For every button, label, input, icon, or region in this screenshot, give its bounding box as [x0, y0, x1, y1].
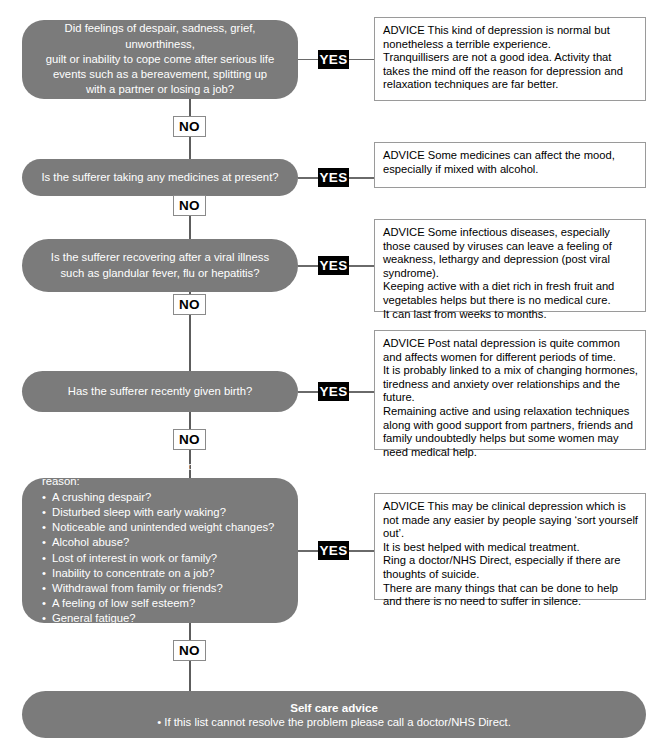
list-item: Alcohol abuse?	[52, 535, 298, 550]
list-item: A feeling of low self esteem?	[52, 596, 298, 611]
self-care-advice-bar: Self care advice • If this list cannot r…	[22, 691, 646, 738]
yes-badge-4[interactable]: YES	[318, 382, 349, 401]
yes-connector-3	[298, 265, 318, 267]
advice-paragraph: There are many things that can be done t…	[383, 582, 638, 609]
advice-paragraph: ADVICE Post natal depression is quite co…	[383, 337, 638, 364]
advice-box-3: ADVICE Some infectious diseases, especia…	[374, 219, 646, 312]
yes-badge-3[interactable]: YES	[318, 256, 349, 275]
advice-paragraph: Tranquillisers are not a good idea. Acti…	[383, 51, 638, 92]
question-text-3: Is the sufferer recovering after a viral…	[22, 250, 298, 280]
advice-box-1: ADVICE This kind of depression is normal…	[374, 17, 646, 101]
list-item: Disturbed sleep with early waking?	[52, 505, 298, 520]
connector-line-10	[189, 661, 191, 691]
connector-line-2	[189, 137, 191, 159]
yes-connector-3b	[349, 265, 374, 267]
yes-badge-2[interactable]: YES	[318, 168, 349, 187]
yes-connector-1b	[349, 59, 374, 61]
question-box-1[interactable]: Did feelings of despair, sadness, grief,…	[22, 20, 298, 99]
depression-flowchart: Did feelings of despair, sadness, grief,…	[0, 0, 663, 744]
yes-connector-2b	[349, 177, 374, 179]
advice-box-2: ADVICE Some medicines can affect the moo…	[374, 142, 646, 188]
list-item: Withdrawal from family or friends?	[52, 581, 298, 596]
yes-connector-2	[298, 177, 318, 179]
symptom-list: A crushing despair? Disturbed sleep with…	[22, 490, 298, 642]
yes-badge-1[interactable]: YES	[318, 50, 349, 69]
self-care-line: • If this list cannot resolve the proble…	[157, 715, 511, 730]
yes-connector-5	[298, 550, 318, 552]
advice-box-4: ADVICE Post natal depression is quite co…	[374, 330, 646, 450]
question-text-5: Is the sufferer experiencing, for no app…	[22, 459, 298, 489]
yes-badge-5[interactable]: YES	[318, 541, 349, 560]
advice-paragraph: ADVICE This may be clinical depression w…	[383, 500, 638, 541]
advice-paragraph: ADVICE Some medicines can affect the moo…	[383, 149, 638, 176]
self-care-title: Self care advice	[290, 700, 378, 715]
advice-paragraph: Remaining active and using relaxation te…	[383, 405, 638, 459]
advice-paragraph: It is probably linked to a mix of changi…	[383, 364, 638, 405]
no-badge-1[interactable]: NO	[173, 116, 206, 137]
question-box-2[interactable]: Is the sufferer taking any medicines at …	[22, 159, 298, 196]
list-item: Noticeable and unintended weight changes…	[52, 520, 298, 535]
list-item: A crushing despair?	[52, 490, 298, 505]
advice-paragraph: Keeping active with a diet rich in fresh…	[383, 280, 638, 307]
question-text-2: Is the sufferer taking any medicines at …	[22, 170, 298, 185]
no-badge-5[interactable]: NO	[173, 640, 206, 661]
advice-paragraph: It can last from weeks to months.	[383, 308, 638, 322]
list-item: Lost of interest in work or family?	[52, 551, 298, 566]
connector-line-1	[189, 99, 191, 117]
advice-box-5: ADVICE This may be clinical depression w…	[374, 493, 646, 600]
question-box-3[interactable]: Is the sufferer recovering after a viral…	[22, 239, 298, 292]
question-text-4: Has the sufferer recently given birth?	[22, 384, 298, 399]
advice-paragraph: ADVICE Some infectious diseases, especia…	[383, 226, 638, 280]
question-box-4[interactable]: Has the sufferer recently given birth?	[22, 371, 298, 412]
list-item: General fatigue?	[52, 611, 298, 626]
no-badge-4[interactable]: NO	[173, 429, 206, 450]
yes-connector-4b	[349, 391, 374, 393]
no-badge-3[interactable]: NO	[173, 294, 206, 315]
yes-connector-1	[298, 59, 318, 61]
advice-paragraph: It is best helped with medical treatment…	[383, 541, 638, 555]
advice-paragraph: ADVICE This kind of depression is normal…	[383, 24, 638, 51]
list-item: Inability to concentrate on a job?	[52, 566, 298, 581]
no-badge-2[interactable]: NO	[173, 195, 206, 216]
connector-line-7	[189, 412, 191, 430]
yes-connector-4	[298, 391, 318, 393]
question-box-5[interactable]: Is the sufferer experiencing, for no app…	[22, 478, 298, 623]
advice-paragraph: Ring a doctor/NHS Direct, especially if …	[383, 554, 638, 581]
question-text-1: Did feelings of despair, sadness, grief,…	[22, 21, 298, 97]
yes-connector-5b	[349, 550, 374, 552]
